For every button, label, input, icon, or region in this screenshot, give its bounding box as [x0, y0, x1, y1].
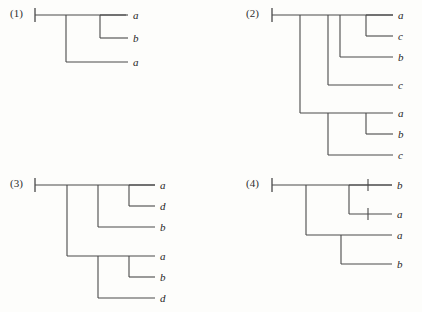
- leaf-label-4-1: b: [397, 180, 403, 191]
- leaf-label-3-2: d: [160, 201, 166, 212]
- leaf-label-3-5: b: [160, 272, 166, 283]
- leaf-label-3-3: b: [160, 222, 166, 233]
- tree-graphic-4: [240, 170, 422, 280]
- tree-figure: (1) a b a (2): [0, 0, 422, 312]
- leaf-label-4-4: b: [397, 259, 403, 270]
- leaf-label-2-2: c: [398, 31, 403, 42]
- leaf-label-2-5: a: [398, 108, 404, 119]
- leaf-label-2-6: b: [398, 129, 404, 140]
- leaf-label-1-1: a: [133, 10, 139, 21]
- leaf-label-3-6: d: [160, 293, 166, 304]
- leaf-label-1-3: a: [133, 57, 139, 68]
- leaf-label-2-4: c: [398, 80, 403, 91]
- leaf-label-2-7: c: [398, 150, 403, 161]
- tree-panel-2: (2): [240, 0, 422, 165]
- tree-graphic-3: [0, 170, 211, 312]
- leaf-label-4-2: a: [397, 209, 403, 220]
- tree-panel-3: (3): [0, 170, 211, 312]
- leaf-label-2-1: a: [398, 10, 404, 21]
- tree-graphic-2: [240, 0, 422, 165]
- leaf-label-1-2: b: [133, 33, 139, 44]
- tree-panel-4: (4) b a a: [240, 170, 422, 280]
- tree-panel-1: (1) a b a: [0, 0, 211, 156]
- leaf-label-3-1: a: [160, 180, 166, 191]
- leaf-label-2-3: b: [398, 52, 404, 63]
- leaf-label-4-3: a: [397, 230, 403, 241]
- tree-graphic-1: [0, 0, 211, 156]
- leaf-label-3-4: a: [160, 251, 166, 262]
